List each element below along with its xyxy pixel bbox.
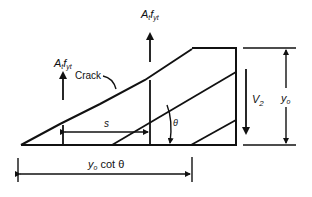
crack-label: Crack	[75, 70, 102, 81]
second-crack-line	[112, 72, 236, 145]
parallel-cracks	[112, 72, 236, 145]
force-label-left: Atfyt	[53, 57, 73, 71]
stirrups	[63, 80, 150, 145]
force-label-top: Atfyt	[140, 8, 160, 22]
shear-label: V2	[252, 93, 264, 108]
third-crack-line	[191, 120, 236, 145]
height-label: yo	[280, 92, 291, 105]
main-crack-line	[21, 49, 192, 145]
angle-label: θ	[173, 118, 178, 128]
projection-label: yo cot θ	[87, 158, 124, 171]
height-dimension	[243, 48, 296, 145]
shear-crack-free-body-diagram: Atfyt Atfyt Crack s θ V2 yo yo cot θ	[0, 0, 312, 197]
crack-leader	[103, 76, 116, 89]
spacing-label: s	[104, 118, 109, 129]
